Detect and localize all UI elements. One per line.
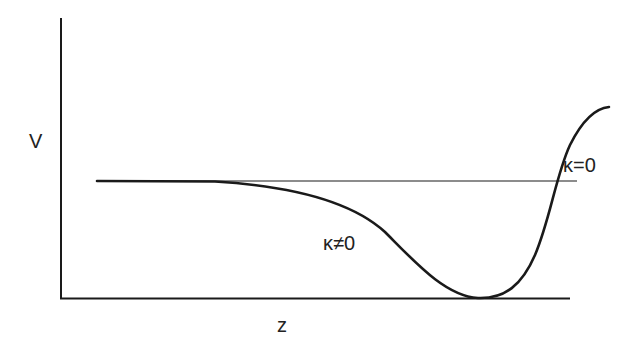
kappa-zero-label: κ=0 xyxy=(563,154,596,176)
x-axis-label: z xyxy=(277,314,287,336)
potential-diagram: V z κ≠0 κ=0 xyxy=(0,0,634,349)
kappa-nonzero-curve xyxy=(97,107,609,298)
kappa-nonzero-label: κ≠0 xyxy=(323,232,355,254)
y-axis-label: V xyxy=(29,130,43,152)
